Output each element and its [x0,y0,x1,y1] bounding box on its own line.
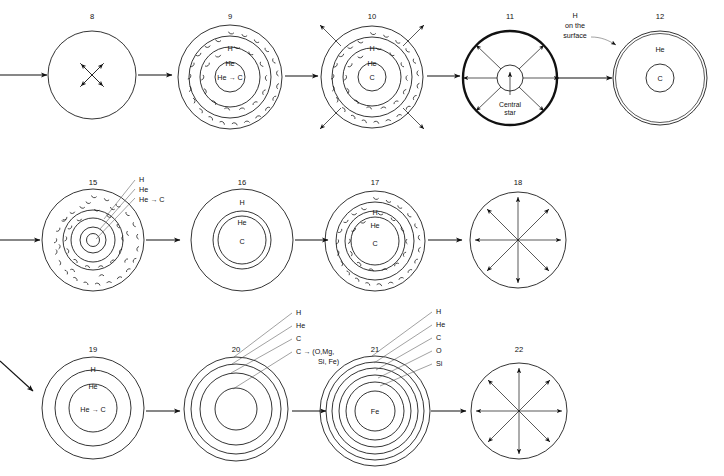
stage-9-label-he-to-c: He → C [217,73,243,82]
stage-12-callout-leader [591,37,616,45]
stage-10-label-he: He [367,59,376,68]
stage-15-callout-h: H [139,175,144,184]
stage-number-17: 17 [371,178,379,187]
stage-17-label-h: H [372,208,377,217]
stage-16: 16 H He C [191,178,293,291]
stage-20-callout-c: C [296,334,301,343]
stage-number-10: 10 [368,12,376,21]
stage-15-callout-he-to-c: He → C [139,195,165,204]
stage-12-callout-line3: surface [563,31,587,40]
stage-21-callout-h: H [436,307,441,316]
stage-17: 17 [325,178,425,291]
stage-21-callout-c: C [436,333,441,342]
stage-11-central-star-label-line2: star [504,109,516,116]
stage-number-9: 9 [228,12,232,21]
stage-15-convection-inner-bound [63,210,123,270]
stage-21-callout-o: O [436,346,442,355]
stage-12-label-c: C [657,74,662,83]
stage-number-16: 16 [238,178,246,187]
stage-21-label-fe: Fe [371,407,379,416]
stage-20: 20 [184,345,288,461]
stage-20-callout-c-to-heavy-line1: C → (O,Mg, [296,347,334,356]
stage-19: 19 H He He → C [42,345,144,459]
stage-19-label-he: He [88,382,97,391]
stage-15-callout-he: He [139,185,148,194]
stage-15-he-shell [71,218,115,262]
stage-21-callouts: H He C O Si [372,307,445,386]
stage-10: 10 [320,12,424,129]
stage-number-22: 22 [515,345,523,354]
stage-number-8: 8 [90,12,94,21]
stage-number-20: 20 [232,345,240,354]
stage-9-label-he: He [225,59,234,68]
stage-11-central-star-label-line1: Central [499,101,521,108]
stage-15-core-circle [87,234,100,247]
stage-20-callouts: H He C C → (O,Mg, Si, Fe) [231,308,339,389]
stage-number-15: 15 [89,178,97,187]
stage-15-inner-shell [80,227,106,253]
stage-18: 18 [470,178,566,288]
stage-12-callout-line1: H [572,11,577,20]
stage-12-callout-line2: on the [565,21,585,30]
stage-8-infall-arrows [80,63,104,87]
flow-arrow-into-stage-19 [0,361,33,391]
stage-15-convection-arcs [54,196,139,286]
stage-8: 8 [48,12,136,119]
stage-20-callout-c-to-heavy-line2: Si, Fe) [318,357,339,366]
stage-22: 22 [471,345,567,459]
stage-15-callouts: H He He → C [96,175,165,239]
stage-16-label-h: H [239,198,244,207]
stage-20-c-shell [200,373,272,445]
stage-15: 15 [42,178,144,291]
stage-22-explosion-arrows [476,368,562,454]
stellar-evolution-diagram: 8 9 [0,0,724,476]
stage-9-label-h: H [227,44,232,53]
stage-17-label-he: He [370,221,379,230]
stage-20-callout-he: He [296,321,305,330]
stage-17-label-c: C [372,239,377,248]
stage-12-label-he: He [655,45,664,54]
stage-20-core-circle [215,388,257,430]
stage-20-he-shell [191,364,281,454]
stage-11: 11 Central star [463,12,559,125]
stage-number-21: 21 [371,345,379,354]
stage-18-explosion-arrows [475,197,561,283]
stage-20-callout-h: H [296,308,301,317]
stage-19-label-h: H [90,365,95,374]
stage-19-label-he-to-c: He → C [80,405,106,414]
stage-number-18: 18 [514,178,522,187]
diagram-canvas: 8 9 [0,0,724,476]
stage-number-11: 11 [506,12,514,21]
stage-10-convection-arcs [331,32,419,123]
stage-21-callout-he: He [436,320,445,329]
stage-16-label-he: He [237,218,246,227]
stage-21-callout-si: Si [436,359,443,368]
stage-10-label-h: H [369,44,374,53]
stage-17-convection-arcs [336,197,421,286]
stage-number-19: 19 [89,345,97,354]
stage-16-label-c: C [239,237,244,246]
stage-number-12: 12 [656,12,664,21]
stage-12: 12 He C H on the surface [563,11,707,125]
stage-9: 9 [178,12,282,129]
stage-10-label-c: C [369,73,374,82]
